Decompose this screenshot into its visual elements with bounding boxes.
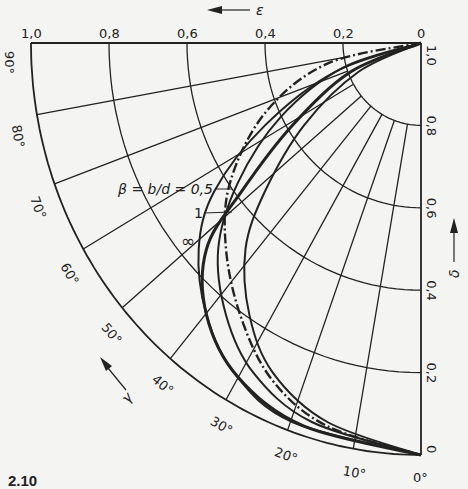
diagonal-arrow-icon: [100, 357, 112, 371]
gamma-arrow-line: [108, 368, 126, 390]
delta-tick-label: 0,4: [424, 280, 439, 301]
gamma-tick-label: 40°: [149, 372, 176, 398]
epsilon-tick-label: 0,2: [333, 26, 354, 41]
epsilon-tick-label: 0,6: [177, 26, 198, 41]
delta-tick-label: 0: [424, 445, 439, 453]
epsilon-tick-label: 0,8: [99, 26, 120, 41]
delta-axis-title: δ: [446, 218, 462, 278]
tick-labels: 1,00,80,60,40,201,00,80,60,40,200°10°20°…: [2, 26, 439, 485]
delta-symbol: δ: [446, 269, 462, 278]
gamma-symbol: γ: [118, 389, 136, 406]
gamma-tick-label: 70°: [27, 194, 49, 221]
delta-tick-label: 0,8: [424, 115, 439, 136]
polar-grid: [37, 43, 421, 449]
radial-line-10: [353, 124, 407, 449]
up-arrow-icon: [450, 218, 458, 233]
gamma-tick-label: 10°: [342, 463, 367, 482]
legend-one-label: 1: [194, 205, 203, 221]
legend-infinity-label: ∞: [181, 231, 195, 251]
gamma-tick-label: 90°: [2, 51, 17, 74]
gamma-tick-label: 60°: [57, 260, 82, 287]
epsilon-symbol: ε: [256, 2, 264, 18]
epsilon-tick-label: 0: [417, 26, 425, 41]
legend-beta-label: β = b/d = 0,5: [117, 181, 213, 197]
figure-caption: 2.10: [8, 472, 37, 489]
radial-line-80: [37, 57, 344, 114]
gamma-axis-title: γ: [100, 357, 136, 406]
gamma-tick-label: 50°: [99, 320, 125, 347]
gamma-tick-label: 20°: [273, 444, 300, 466]
epsilon-axis-title: ε: [207, 2, 264, 18]
epsilon-tick-label: 1,0: [21, 26, 42, 41]
delta-tick-label: 0,2: [424, 363, 439, 384]
gamma-tick-label: 80°: [9, 124, 28, 149]
curve--: [202, 43, 421, 455]
radial-line-50: [122, 96, 361, 308]
epsilon-tick-label: 0,4: [255, 26, 276, 41]
gamma-tick-label: 0°: [413, 470, 428, 485]
radial-line-20: [288, 120, 395, 430]
gamma-tick-label: 30°: [208, 413, 235, 438]
radial-line-70: [55, 71, 348, 184]
radial-line-30: [226, 114, 382, 399]
delta-tick-label: 0,6: [424, 198, 439, 219]
curve-group: [198, 43, 421, 455]
delta-tick-label: 1,0: [424, 45, 439, 66]
left-arrow-icon: [207, 6, 222, 14]
